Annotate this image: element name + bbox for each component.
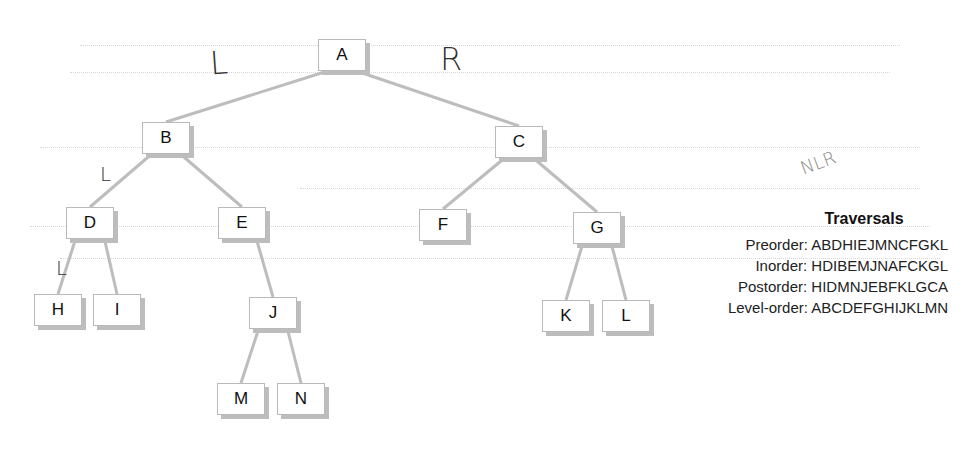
traversal-postorder: Postorder: HIDMNJEBFKLGCA bbox=[690, 276, 948, 297]
handwritten-right-mark: R bbox=[440, 40, 462, 78]
traversal-level-order: Level-order: ABCDEFGHIJKLMN bbox=[690, 297, 948, 318]
tree-node-n: N bbox=[277, 383, 325, 415]
edge-a-b bbox=[166, 71, 328, 122]
tree-node-g: G bbox=[573, 212, 621, 244]
tree-node-f: F bbox=[419, 209, 467, 241]
tree-node-j: J bbox=[249, 297, 297, 329]
tree-node-e: E bbox=[218, 207, 266, 239]
tree-node-c: C bbox=[495, 126, 543, 158]
tree-node-a: A bbox=[318, 39, 366, 71]
handwritten-left-mark: L bbox=[209, 43, 229, 82]
edge-a-c bbox=[356, 71, 519, 126]
edge-j-n bbox=[287, 329, 301, 383]
traversal-preorder: Preorder: ABDHIEJMNCFGKL bbox=[690, 234, 948, 255]
traversals-panel: Traversals Preorder: ABDHIEJMNCFGKL Inor… bbox=[690, 210, 948, 318]
edge-g-k bbox=[566, 244, 583, 300]
edge-c-g bbox=[533, 158, 597, 212]
traversals-title: Traversals bbox=[690, 210, 948, 228]
tree-node-h: H bbox=[34, 294, 82, 326]
edge-c-f bbox=[443, 158, 505, 209]
tree-node-l: L bbox=[602, 300, 650, 332]
edge-d-i bbox=[104, 239, 117, 294]
edge-g-l bbox=[611, 244, 626, 300]
edge-b-e bbox=[180, 154, 242, 207]
tree-node-d: D bbox=[66, 207, 114, 239]
handwritten-left-mark-b: L bbox=[100, 162, 111, 186]
edge-j-m bbox=[241, 329, 259, 383]
tree-node-i: I bbox=[93, 294, 141, 326]
edge-e-j bbox=[256, 239, 273, 297]
tree-node-m: M bbox=[217, 383, 265, 415]
handwritten-left-mark-d: L bbox=[56, 256, 67, 280]
tree-node-b: B bbox=[142, 122, 190, 154]
traversal-inorder: Inorder: HDIBEMJNAFCKGL bbox=[690, 255, 948, 276]
tree-node-k: K bbox=[542, 300, 590, 332]
